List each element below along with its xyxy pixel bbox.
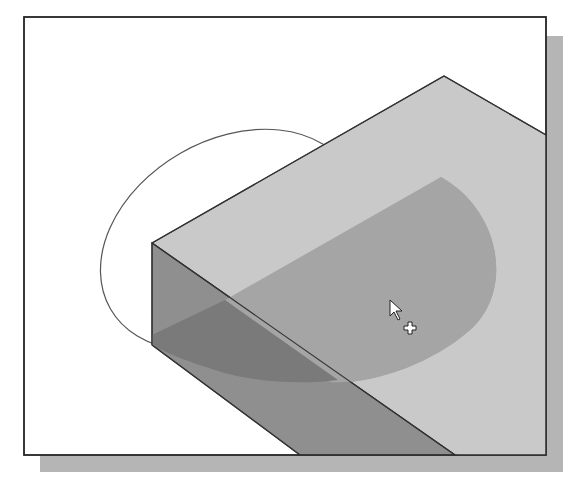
isometric-model-drawing [0,0,586,493]
cad-viewport[interactable] [0,0,586,493]
